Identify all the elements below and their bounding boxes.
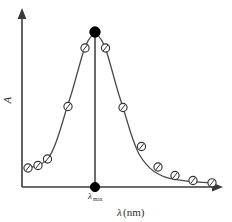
data-point-marker — [171, 171, 179, 179]
data-point-marker — [101, 44, 109, 52]
y-axis-label: A — [1, 96, 13, 104]
y-axis-arrowhead — [18, 8, 27, 19]
data-point-marker — [34, 161, 42, 169]
x-axis-label-units: (nm) — [123, 206, 145, 219]
lambda-max-tick-label: λ max — [87, 191, 103, 202]
x-axis-label-symbol: λ — [116, 206, 122, 218]
data-point-marker — [81, 44, 89, 52]
absorption-spectrum-figure: A λ max λ (nm) — [0, 0, 232, 222]
data-point-marker — [208, 179, 216, 187]
peak-point-marker — [90, 27, 100, 37]
x-axis-label: λ (nm) — [116, 206, 145, 219]
data-markers-group — [24, 44, 216, 187]
data-point-marker — [119, 103, 127, 111]
data-point-marker — [64, 102, 72, 110]
data-point-marker — [137, 142, 145, 150]
spectrum-plot: A λ max λ (nm) — [0, 0, 232, 222]
data-point-marker — [154, 163, 162, 171]
lambda-max-subscript: max — [93, 196, 103, 202]
lambda-max-symbol: λ — [87, 191, 92, 201]
data-point-marker — [24, 164, 32, 172]
data-point-marker — [189, 176, 197, 184]
data-point-marker — [43, 155, 51, 163]
